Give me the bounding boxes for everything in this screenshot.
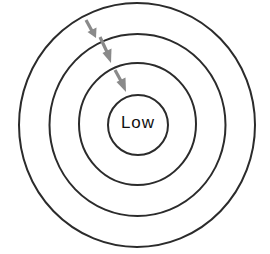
arrow-outer-to-second — [86, 20, 97, 38]
arrow-head-icon — [117, 78, 127, 93]
center-label: Low — [121, 113, 155, 132]
concentric-circles-diagram: Low — [0, 0, 270, 254]
arrow-third-to-inner — [115, 70, 126, 92]
